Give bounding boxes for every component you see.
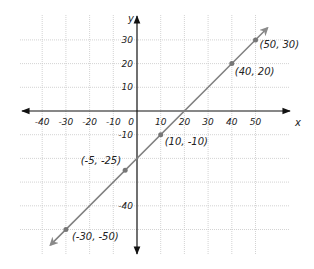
y-tick-label: -40 <box>118 201 133 211</box>
x-tick-label: 30 <box>202 117 214 127</box>
x-tick-label: 0 <box>128 117 134 127</box>
data-point <box>63 227 68 232</box>
data-point-label: (50, 30) <box>260 39 300 50</box>
y-tick-label: -10 <box>118 130 133 140</box>
data-line <box>50 28 267 245</box>
data-point-label: (-30, -50) <box>72 231 119 242</box>
coordinate-plane-chart: xy -40-30-20-1001020304050302010-10-40 (… <box>0 0 314 269</box>
x-tick-label: -30 <box>59 117 74 127</box>
x-axis-label: x <box>294 117 301 128</box>
data-point-label: (40, 20) <box>235 66 275 77</box>
y-axis-label: y <box>127 13 135 24</box>
data-point <box>253 37 258 42</box>
grid-lines <box>20 15 290 255</box>
tick-labels: -40-30-20-1001020304050302010-10-40 <box>35 35 262 211</box>
x-tick-label: 50 <box>250 117 262 127</box>
x-tick-label: -20 <box>82 117 97 127</box>
x-tick-label: -40 <box>35 117 50 127</box>
x-tick-label: 20 <box>179 117 191 127</box>
data-point <box>229 61 234 66</box>
x-tick-label: 40 <box>226 117 238 127</box>
data-point-label: (-5, -25) <box>81 155 121 166</box>
data-point <box>158 132 163 137</box>
y-tick-label: 10 <box>122 82 134 92</box>
data-point-label: (10, -10) <box>165 136 208 147</box>
x-tick-label: 10 <box>155 117 167 127</box>
data-series: (-30, -50)(-5, -25)(10, -10)(40, 20)(50,… <box>50 28 299 245</box>
x-tick-label: -10 <box>106 117 121 127</box>
y-tick-label: 20 <box>122 59 134 69</box>
y-tick-label: 30 <box>122 35 134 45</box>
data-point <box>123 168 128 173</box>
